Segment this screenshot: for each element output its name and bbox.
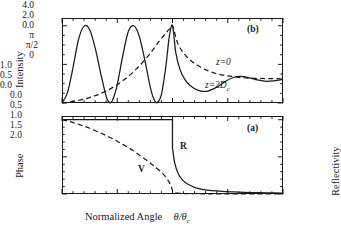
panel-a-tag: (a)	[247, 123, 258, 133]
panel-a-ylabel-left: Phase	[14, 154, 25, 179]
xaxis-title: Normalized Angle θ/θc	[85, 211, 190, 225]
curve-label-v: V	[138, 164, 145, 174]
panel-a-ylabel-right: Reflectivity	[330, 146, 341, 196]
curve-label-r: R	[180, 141, 187, 151]
